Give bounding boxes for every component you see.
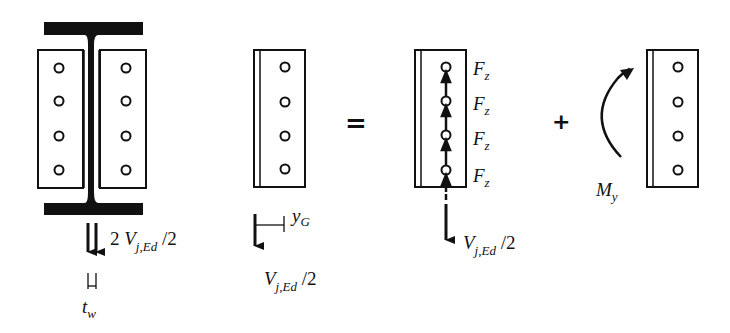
moment-label: My [596,180,618,199]
web-thickness-label: tw [82,297,96,316]
plus-sign: + [552,111,570,133]
moment-arrow-icon [602,69,630,157]
diagram-canvas [0,0,730,333]
bolt-force-label-1: Fz [473,59,490,78]
bolt-force-label-4: Fz [473,166,490,185]
bolt-force-label-2: Fz [473,94,490,113]
eccentricity-label: yG [292,206,310,225]
eccentricity-dimension [255,216,284,232]
bolt-holes-left [55,64,64,175]
bolt-holes [281,63,290,174]
shear-force-label: 2 Vj,Ed /2 [110,229,177,248]
bolt-force-label-3: Fz [473,129,490,148]
left-cover-plate [38,50,83,188]
web-thickness-dimension [88,273,96,289]
equals-sign: = [345,110,367,136]
bolt-holes [674,63,683,175]
shear-force-label: Vj,Ed /2 [463,233,515,252]
plate-bolt-forces-panel [415,50,466,240]
double-shear-arrow-icon [88,223,96,252]
shear-force-label: Vj,Ed /2 [264,269,316,288]
bolt-holes-right [122,64,131,175]
plate-moment-panel [602,50,698,187]
